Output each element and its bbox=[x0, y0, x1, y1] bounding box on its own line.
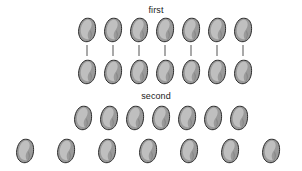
bean bbox=[177, 105, 197, 131]
bean bbox=[181, 59, 201, 85]
bean bbox=[151, 105, 171, 131]
bean-connector-line bbox=[165, 45, 166, 56]
bean bbox=[207, 59, 227, 85]
bean bbox=[155, 59, 175, 85]
bean bbox=[261, 138, 281, 164]
group-label-second: second bbox=[141, 91, 171, 102]
group-label-first: first bbox=[149, 5, 164, 16]
bean bbox=[99, 105, 119, 131]
bean bbox=[233, 17, 253, 43]
bean-connector-line bbox=[217, 45, 218, 56]
bean bbox=[77, 59, 97, 85]
diagram-canvas: first second bbox=[0, 0, 302, 171]
bean bbox=[97, 138, 117, 164]
bean-connector-line bbox=[191, 45, 192, 56]
bean-connector-line bbox=[113, 45, 114, 56]
bean bbox=[15, 138, 35, 164]
bean bbox=[77, 17, 97, 43]
bean bbox=[220, 138, 240, 164]
bean bbox=[56, 138, 76, 164]
bean bbox=[181, 17, 201, 43]
bean-connector-line bbox=[139, 45, 140, 56]
bean bbox=[207, 17, 227, 43]
bean bbox=[138, 138, 158, 164]
bean bbox=[125, 105, 145, 131]
bean bbox=[233, 59, 253, 85]
bean bbox=[103, 59, 123, 85]
bean bbox=[229, 105, 249, 131]
bean bbox=[179, 138, 199, 164]
bean bbox=[155, 17, 175, 43]
bean bbox=[203, 105, 223, 131]
bean bbox=[129, 17, 149, 43]
bean bbox=[103, 17, 123, 43]
bean bbox=[73, 105, 93, 131]
bean-connector-line bbox=[243, 45, 244, 56]
bean bbox=[129, 59, 149, 85]
bean-connector-line bbox=[87, 45, 88, 56]
